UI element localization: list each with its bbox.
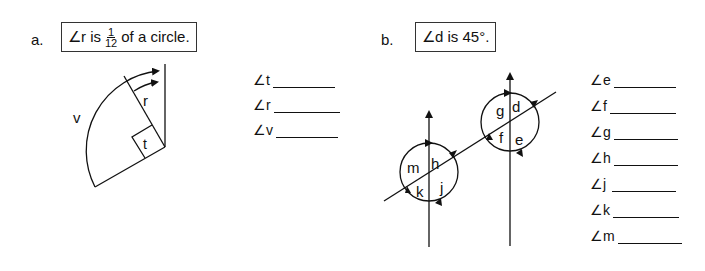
answer-row-k: ∠k [590,200,682,218]
label-v: v [73,109,81,126]
answer-row-e: ∠e [590,70,682,88]
label-h: h [431,155,439,172]
answer-blank-t[interactable] [273,75,335,88]
part-b-label: b. [381,31,394,48]
answer-row-g: ∠g [590,122,682,140]
answer-blank-m[interactable] [618,231,682,244]
answer-row-r: ∠r [253,95,340,113]
answer-row-m: ∠m [590,226,682,244]
right-angle-mark [132,125,152,158]
answer-row-t: ∠t [253,70,340,88]
label-g: g [496,102,504,119]
label-d: d [512,98,520,115]
arc-r [134,82,157,91]
answer-row-j: ∠j [590,174,682,192]
label-e: e [515,131,523,148]
answer-blank-g[interactable] [614,127,678,140]
transversal-line [384,92,556,201]
part-b-given-box: ∠d is 45°. [415,22,496,52]
label-r: r [143,92,148,109]
answer-row-f: ∠f [590,96,682,114]
answer-blank-f[interactable] [610,101,676,114]
label-j: j [439,179,443,196]
answer-blank-h[interactable] [614,153,678,166]
answer-blank-j[interactable] [612,179,676,192]
arc-v [86,71,158,187]
answer-blank-v[interactable] [276,125,338,138]
label-t: t [143,136,147,152]
label-k: k [416,183,424,200]
label-f: f [499,129,504,146]
answer-blank-k[interactable] [613,205,679,218]
part-a-diagram [86,64,165,187]
ray-t [95,147,165,187]
answer-blank-r[interactable] [274,100,340,113]
part-a-answer-list: ∠t ∠r ∠v [253,70,340,138]
answer-row-v: ∠v [253,120,340,138]
answer-row-h: ∠h [590,148,682,166]
answer-blank-e[interactable] [614,75,676,88]
part-b-answer-list: ∠e ∠f ∠g ∠h ∠j ∠k ∠m [590,70,682,244]
given-b-text: ∠d is 45°. [422,26,489,48]
label-m: m [407,159,420,176]
